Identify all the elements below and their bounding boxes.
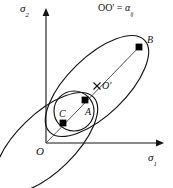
- origin-label: O: [36, 146, 44, 157]
- sigma-2-subscript: 2: [25, 11, 28, 18]
- sigma-1-subscript: 1: [153, 160, 156, 167]
- point-b-label: B: [147, 35, 153, 45]
- point-a-label: A: [85, 107, 91, 117]
- o-prime-cross-icon: [94, 83, 101, 90]
- translation-vector-annotation: OO' = αij: [98, 3, 134, 15]
- point-a-marker: [82, 97, 89, 104]
- sigma-2-axis-label: σ2: [20, 3, 29, 17]
- point-o-prime-label: O': [102, 81, 111, 91]
- stress-space-yield-surface-figure: σ2 σ1 O O' A B C OO' = αij: [0, 0, 173, 188]
- annotation-equals: =: [114, 2, 125, 13]
- annotation-lead: OO': [98, 2, 114, 13]
- point-c-marker: [60, 120, 67, 127]
- point-c-label: C: [59, 109, 66, 119]
- sigma-1-axis-label: σ1: [148, 152, 157, 166]
- sigma-2-axis-arrowhead: [43, 8, 50, 16]
- sigma-2-axis: [43, 8, 50, 143]
- annotation-alpha-subscript: ij: [130, 10, 133, 17]
- point-b-marker: [136, 44, 143, 51]
- translation-vector-line: [46, 45, 141, 143]
- sigma-1-axis: [46, 140, 164, 147]
- sigma-1-axis-arrowhead: [156, 140, 164, 147]
